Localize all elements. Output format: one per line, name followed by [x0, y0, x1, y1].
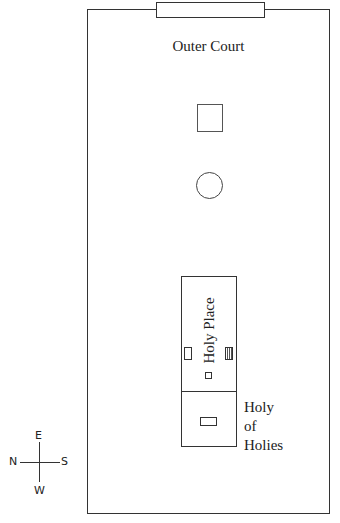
ark-of-covenant — [200, 417, 217, 426]
altar-square — [197, 104, 223, 132]
table-of-showbread — [184, 347, 192, 360]
lampstand — [225, 347, 233, 360]
laver-circle — [196, 172, 223, 199]
compass-east: E — [35, 429, 42, 442]
compass-south: S — [61, 455, 68, 468]
altar-of-incense — [205, 372, 212, 379]
compass-north: N — [9, 455, 17, 468]
compass-horizontal-line — [20, 462, 60, 463]
court-gate — [156, 2, 265, 18]
holy-place-label: Holy Place — [201, 297, 218, 363]
compass-rose: E W N S — [0, 425, 80, 505]
holy-of-holies-label: Holy of Holies — [244, 398, 283, 455]
veil-divider — [181, 391, 237, 392]
holy-place-label-wrap: Holy Place — [196, 280, 222, 380]
compass-west: W — [34, 484, 45, 497]
hoh-line-2: of — [244, 417, 283, 436]
hoh-line-1: Holy — [244, 398, 283, 417]
hoh-line-3: Holies — [244, 436, 283, 455]
outer-court-label: Outer Court — [87, 38, 330, 55]
